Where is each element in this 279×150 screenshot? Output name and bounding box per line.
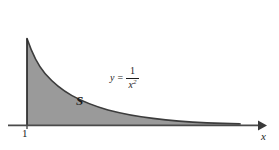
equation-denominator: x2 xyxy=(128,80,138,91)
equation-lhs: y xyxy=(110,73,114,83)
equation-equals-sign: = xyxy=(117,73,123,83)
equation-numerator: 1 xyxy=(128,66,137,77)
equation-denominator-exponent: 2 xyxy=(133,77,137,85)
region-label-s: S xyxy=(76,94,83,107)
equation-fraction: 1 x2 xyxy=(126,66,139,90)
x-axis-label: x xyxy=(261,131,266,142)
math-figure: 1 S x y = 1 x2 xyxy=(0,0,279,150)
figure-graphic xyxy=(0,0,279,150)
x-axis-arrowhead xyxy=(258,120,267,130)
curve-equation-label: y = 1 x2 xyxy=(110,66,139,90)
x-tick-label-1: 1 xyxy=(22,128,28,139)
